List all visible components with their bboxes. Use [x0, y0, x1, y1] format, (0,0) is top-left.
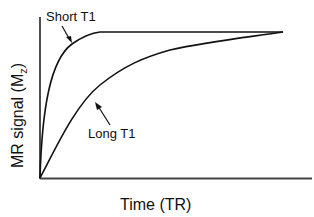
long-t1-label: Long T1	[88, 126, 135, 141]
long-t1-arrowhead	[95, 102, 102, 110]
y-axis-label: MR signal (Mz)	[9, 63, 29, 168]
long-t1-curve	[40, 32, 283, 178]
long-t1-arrow	[98, 106, 110, 125]
short-t1-label: Short T1	[46, 9, 96, 24]
t1-recovery-chart: Short T1 Long T1 Time (TR) MR signal (Mz…	[0, 0, 314, 217]
short-t1-curve	[40, 32, 283, 178]
svg-text:MR signal (Mz): MR signal (Mz)	[9, 63, 29, 168]
x-axis-label: Time (TR)	[120, 196, 191, 213]
short-t1-arrowhead	[66, 36, 72, 43]
